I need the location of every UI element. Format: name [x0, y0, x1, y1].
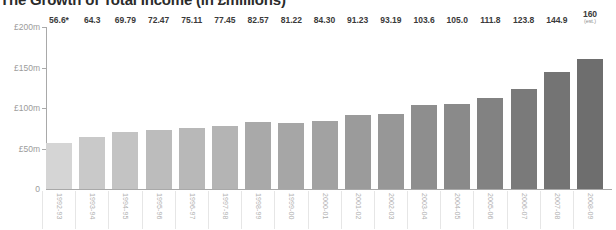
bar-value-label: 64.3: [84, 16, 101, 25]
x-tick-label: 1997-98: [221, 193, 228, 219]
x-tick-label: 2005-06: [487, 193, 494, 219]
bar-value-label: 105.0: [447, 16, 468, 25]
bar[interactable]: [245, 122, 271, 189]
bar[interactable]: [146, 130, 172, 189]
bar[interactable]: [112, 132, 138, 189]
x-label-slot: 1999-00: [278, 191, 304, 230]
bar-slot: 81.22: [278, 27, 304, 189]
bar-value-label: 93.19: [380, 16, 401, 25]
x-label-slot: 1994-95: [112, 191, 138, 230]
x-label-slot: 2005-06: [477, 191, 503, 230]
bar-slot: 144.9: [544, 27, 570, 189]
x-tick-label: 1995-96: [155, 193, 162, 219]
x-label-slot: 2006-07: [511, 191, 537, 230]
x-tick-label: 1999-00: [288, 193, 295, 219]
bar[interactable]: [544, 72, 570, 189]
x-tick-label: 1994-95: [122, 193, 129, 219]
bar-value-label: 111.8: [480, 16, 500, 25]
y-tick-label: 0: [35, 184, 46, 194]
bar[interactable]: [577, 59, 603, 189]
x-label-slot: 2003-04: [411, 191, 437, 230]
x-label-slot: 2000-01: [312, 191, 338, 230]
bar-slot: 105.0: [444, 27, 470, 189]
x-tick-separator: [573, 191, 574, 229]
x-label-slot: 2004-05: [444, 191, 470, 230]
x-tick-separator: [175, 191, 176, 229]
x-tick-separator: [241, 191, 242, 229]
bar[interactable]: [46, 143, 72, 189]
bar-slot: 56.6*: [46, 27, 72, 189]
x-tick-label: 1996-97: [188, 193, 195, 219]
x-label-slot: 1998-99: [245, 191, 271, 230]
bar-slot: 64.3: [79, 27, 105, 189]
x-tick-separator: [341, 191, 342, 229]
x-tick-separator: [407, 191, 408, 229]
x-tick-separator: [540, 191, 541, 229]
bar[interactable]: [312, 121, 338, 189]
x-axis-line: [46, 189, 612, 190]
bar-slot: 72.47: [146, 27, 172, 189]
bar-slot: 69.79: [112, 27, 138, 189]
bar-slot: 84.30: [312, 27, 338, 189]
bar-value-label: 72.47: [148, 16, 169, 25]
bar-value-label: 77.45: [214, 16, 235, 25]
bar-slot: 91.23: [345, 27, 371, 189]
x-label-slot: 2007-08: [544, 191, 570, 230]
x-tick-separator: [308, 191, 309, 229]
bar-slot: 75.11: [179, 27, 205, 189]
bar-slot: 77.45: [212, 27, 238, 189]
x-label-slot: 1992-93: [46, 191, 72, 230]
bar-value-label: 84.30: [314, 16, 335, 25]
x-tick-label: 2008-09: [587, 193, 594, 219]
bar[interactable]: [411, 105, 437, 189]
x-tick-label: 2001-02: [354, 193, 361, 219]
bar-value-label: 103.6: [413, 16, 434, 25]
x-tick-label: 2007-08: [553, 193, 560, 219]
x-tick-separator: [42, 191, 43, 229]
x-tick-separator: [208, 191, 209, 229]
x-tick-label: 2006-07: [520, 193, 527, 219]
bar-value-label: 123.8: [513, 16, 534, 25]
bar-value-label: 91.23: [347, 16, 368, 25]
bar[interactable]: [278, 123, 304, 189]
bar-series: 56.6*64.369.7972.4775.1177.4582.5781.228…: [46, 27, 612, 189]
bar[interactable]: [477, 98, 503, 189]
bar-value-est-note: (est.): [583, 19, 597, 25]
x-label-slot: 1993-94: [79, 191, 105, 230]
x-tick-separator: [75, 191, 76, 229]
bar[interactable]: [345, 115, 371, 189]
x-tick-separator: [473, 191, 474, 229]
chart-container: The Growth of Total Income (in £millions…: [0, 0, 616, 230]
bar[interactable]: [378, 114, 404, 189]
x-tick-separator: [108, 191, 109, 229]
bar-slot: 160(est.): [577, 27, 603, 189]
bar[interactable]: [79, 137, 105, 189]
x-label-slot: 1995-96: [146, 191, 172, 230]
x-tick-label: 2003-04: [421, 193, 428, 219]
x-tick-separator: [142, 191, 143, 229]
x-label-slot: 2008-09: [577, 191, 603, 230]
bar-slot: 93.19: [378, 27, 404, 189]
x-label-slot: 2002-03: [378, 191, 404, 230]
bar-value-label: 160(est.): [583, 10, 597, 25]
plot-area: 0£50m£100m£150m£200m 56.6*64.369.7972.47…: [46, 27, 612, 189]
x-tick-label: 1992-93: [56, 193, 63, 219]
bar-value-label: 69.79: [115, 16, 136, 25]
x-tick-separator: [440, 191, 441, 229]
bar-value-label: 82.57: [247, 16, 268, 25]
x-tick-separator: [507, 191, 508, 229]
bar-value-label: 75.11: [181, 16, 202, 25]
bar[interactable]: [179, 128, 205, 189]
chart-title: The Growth of Total Income (in £millions…: [0, 0, 286, 8]
x-tick-label: 2002-03: [387, 193, 394, 219]
bar-slot: 123.8: [511, 27, 537, 189]
bar-slot: 111.8: [477, 27, 503, 189]
bar[interactable]: [444, 104, 470, 189]
x-tick-label: 1998-99: [255, 193, 262, 219]
x-label-slot: 2001-02: [345, 191, 371, 230]
bar[interactable]: [511, 89, 537, 189]
bar-value-label: 56.6*: [49, 16, 69, 25]
x-tick-separator: [374, 191, 375, 229]
bar[interactable]: [212, 126, 238, 189]
bar-slot: 82.57: [245, 27, 271, 189]
